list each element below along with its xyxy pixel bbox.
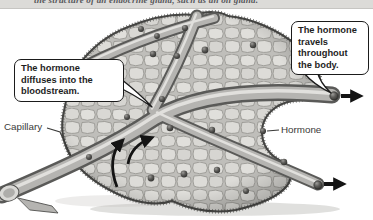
callout-travel: The hormone travels throughout the body. xyxy=(291,21,369,75)
hormone-dot xyxy=(167,125,174,132)
hormone-leader-line xyxy=(267,130,279,131)
callout-diffusion: The hormone diffuses into the bloodstrea… xyxy=(14,59,124,102)
hormone-dot xyxy=(150,51,156,57)
hormone-dot xyxy=(159,96,165,102)
label-capillary: Capillary xyxy=(4,121,42,132)
hormone-dot xyxy=(243,188,249,194)
hormone-dot xyxy=(138,26,144,32)
hormone-dot xyxy=(214,167,220,173)
hormone-dot-exit-bottom xyxy=(314,181,322,189)
hormone-dot xyxy=(148,175,155,182)
cropped-caption-text: the structure of an endocrine gland, suc… xyxy=(34,0,258,5)
hormone-dot xyxy=(182,25,188,31)
hormone-dot xyxy=(202,47,209,54)
hormone-dot xyxy=(260,128,266,134)
figure-stage: the structure of an endocrine gland, suc… xyxy=(0,0,373,220)
hormone-dot xyxy=(86,154,92,160)
hormone-dot xyxy=(174,53,180,59)
hormone-dot xyxy=(209,127,215,133)
label-hormone: Hormone xyxy=(281,124,321,135)
hormone-dot xyxy=(154,33,160,39)
cropped-caption-band: the structure of an endocrine gland, suc… xyxy=(0,0,373,9)
hormone-dot xyxy=(124,114,130,120)
hormone-dot xyxy=(250,42,256,48)
hormone-dot xyxy=(181,171,188,178)
hormone-dot xyxy=(281,159,287,165)
exit-arrows xyxy=(324,96,359,184)
